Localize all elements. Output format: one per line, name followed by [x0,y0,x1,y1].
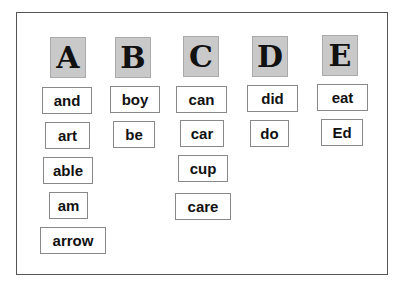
word-card-boy[interactable]: boy [110,86,160,113]
word-card-able[interactable]: able [43,157,93,184]
letter-tile-e: E [322,35,358,76]
word-card-did[interactable]: did [247,85,298,112]
word-card-eat[interactable]: eat [317,84,368,111]
word-card-art[interactable]: art [45,122,90,149]
word-card-car[interactable]: car [180,120,224,147]
word-card-cup[interactable]: cup [178,155,228,182]
word-card-ed[interactable]: Ed [321,119,363,146]
letter-tile-c: C [183,36,219,77]
word-card-am[interactable]: am [49,192,88,219]
word-card-and[interactable]: and [42,87,92,114]
letter-tile-a: A [50,37,86,78]
word-card-care[interactable]: care [175,193,231,220]
word-card-arrow[interactable]: arrow [40,227,106,254]
word-card-be[interactable]: be [113,121,155,148]
word-card-do[interactable]: do [250,120,289,147]
letter-tile-d: D [252,36,288,77]
letter-tile-b: B [115,37,151,78]
word-card-can[interactable]: can [176,86,227,113]
